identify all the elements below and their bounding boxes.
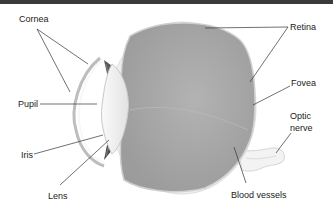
- label-iris: Iris: [21, 150, 33, 160]
- label-blood-vessels: Blood vessels: [231, 190, 287, 200]
- label-retina: Retina: [290, 22, 316, 32]
- label-pupil: Pupil: [18, 99, 38, 109]
- eye-illustration: [0, 0, 333, 216]
- label-optic-nerve-line1: Optic: [290, 111, 311, 121]
- eye-diagram: Cornea Pupil Iris Lens Retina Fovea Opti…: [0, 0, 333, 216]
- cornea: [74, 58, 104, 166]
- label-optic-nerve-line2: nerve: [290, 123, 313, 133]
- cornea-line-lower: [37, 29, 70, 92]
- retina-line-lower: [250, 27, 288, 82]
- label-cornea: Cornea: [19, 14, 49, 24]
- label-lens: Lens: [48, 191, 68, 201]
- label-fovea: Fovea: [291, 78, 316, 88]
- vitreous-body: [120, 23, 255, 192]
- iris-line: [34, 135, 103, 154]
- optic-nerve-line: [276, 133, 291, 153]
- fovea-line: [253, 86, 290, 105]
- cornea-line-upper: [37, 29, 88, 64]
